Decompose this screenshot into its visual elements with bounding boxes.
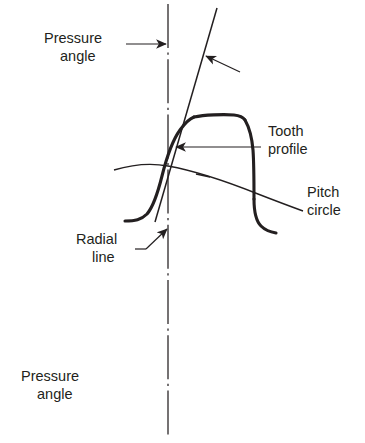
pressure-angle-bottom-label-line1: Pressure [21, 368, 79, 384]
pitch-circle-label-line2: circle [307, 202, 341, 218]
tooth-profile-callout: Tooth profile [176, 123, 308, 157]
tooth-right-flank [245, 120, 254, 199]
pressure-angle-bottom-callout: Pressure angle [21, 368, 79, 402]
pressure-angle-top-label-line1: Pressure [44, 30, 102, 46]
pitch-circle-stroke [114, 164, 303, 211]
pitch-circle-callout: Pitch circle [307, 184, 341, 218]
radial-line-label-line2: line [92, 249, 115, 265]
pressure-angle-top-callout: Pressure angle [44, 30, 166, 64]
radial-line-label-line1: Radial [76, 231, 117, 247]
tooth-right-root-fillet [254, 199, 276, 233]
tooth-crown [194, 115, 245, 120]
pressure-line-arrow [206, 56, 240, 72]
pressure-angle-top-label-line2: angle [60, 48, 95, 64]
diagram-canvas: Pressure angle Tooth profile Pitch circl… [0, 0, 365, 443]
pitch-circle-label-line1: Pitch [307, 184, 339, 200]
tooth-profile-label-line1: Tooth [268, 123, 303, 139]
gear-tooth-diagram: Pressure angle Tooth profile Pitch circl… [0, 0, 365, 443]
pitch-circle-arc [114, 164, 303, 211]
radial-line-callout: Radial line [76, 229, 167, 265]
radial-line-leader-arrow [146, 229, 167, 249]
pressure-angle-line-pointer [206, 56, 240, 72]
pressure-angle-bottom-label-line2: angle [37, 386, 72, 402]
tooth-profile-label-line2: profile [268, 141, 308, 157]
